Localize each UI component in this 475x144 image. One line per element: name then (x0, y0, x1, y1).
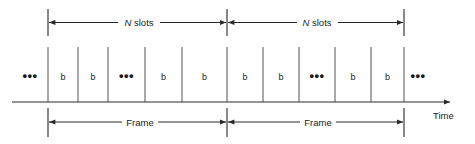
frame-right-label: Frame (304, 117, 331, 128)
measure-n-slots-left: N slots (49, 17, 226, 28)
slot-cell-label: b (242, 72, 247, 82)
slot-cell-label: b (202, 72, 207, 82)
slot-cell-label: b (278, 72, 283, 82)
frame-right-cells: b b ••• b b ••• (242, 68, 425, 83)
time-axis: Time (12, 102, 454, 121)
n-slots-left-label: N slots (124, 17, 153, 28)
diagram-canvas: N slots N slots (0, 0, 475, 144)
measure-frame-left: Frame (49, 117, 226, 128)
slot-cell-label: b (161, 72, 166, 82)
measure-frame-right: Frame (228, 117, 403, 128)
trailing-ellipsis: ••• (410, 68, 425, 83)
tdma-frame-diagram: N slots N slots (0, 0, 475, 144)
frame-left-cells: ••• b b ••• b b (22, 68, 207, 83)
n-slots-right-text: slots (309, 17, 331, 28)
n-slots-left-text: slots (131, 17, 153, 28)
leading-ellipsis: ••• (22, 68, 37, 83)
slot-cell-ellipsis: ••• (119, 68, 134, 83)
slot-cell-label: b (350, 72, 355, 82)
n-slots-right-label: N slots (302, 17, 331, 28)
measure-n-slots-right: N slots (228, 17, 403, 28)
slot-cell-ellipsis: ••• (309, 68, 324, 83)
slot-cell-label: b (60, 72, 65, 82)
time-axis-label: Time (433, 110, 454, 121)
frame-left-label: Frame (126, 117, 153, 128)
slot-cell-label: b (385, 72, 390, 82)
slot-cell-label: b (90, 72, 95, 82)
